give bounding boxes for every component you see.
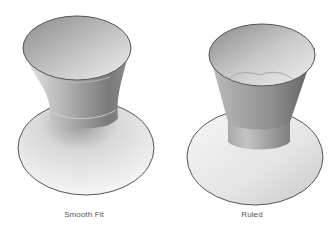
figure-ruled: Ruled [168, 0, 336, 233]
smooth-fit-surface-illustration [0, 0, 168, 233]
caption-smooth-fit: Smooth Fit [0, 210, 168, 219]
top-rim [23, 16, 131, 80]
figure-smooth-fit: Smooth Fit [0, 0, 168, 233]
ruled-surface-illustration [168, 0, 336, 233]
caption-ruled: Ruled [168, 210, 336, 219]
top-rim [209, 24, 315, 86]
